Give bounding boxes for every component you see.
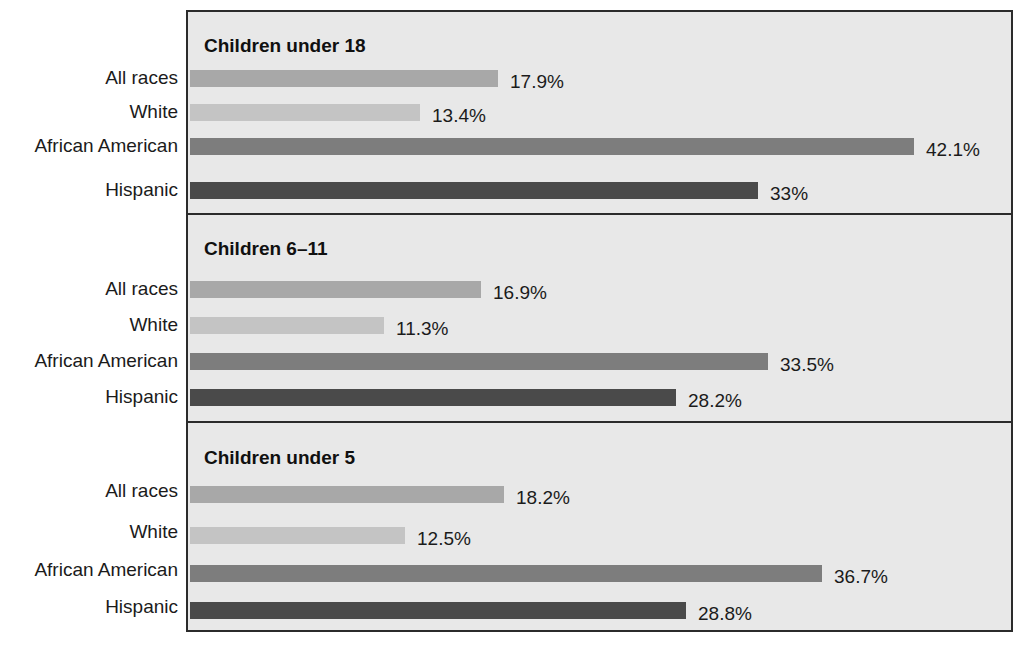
category-label: White: [0, 102, 178, 121]
bar-all-races: [190, 281, 481, 298]
panel-children-6-11: Children 6–11 16.9% 11.3% 33.5% 28.2%: [188, 215, 1011, 421]
bar-value-label: 33.5%: [780, 355, 834, 374]
bar-african-american: [190, 353, 768, 370]
panel-title: Children under 18: [204, 36, 366, 55]
bar-white: [190, 104, 420, 121]
category-label: All races: [0, 68, 178, 87]
category-label: African American: [0, 560, 178, 579]
panel-children-under-5: Children under 5 18.2% 12.5% 36.7% 28.8%: [188, 423, 1011, 630]
category-label: African American: [0, 136, 178, 155]
bar-hispanic: [190, 602, 686, 619]
category-label: All races: [0, 481, 178, 500]
bar-value-label: 18.2%: [516, 488, 570, 507]
bar-value-label: 11.3%: [396, 319, 448, 338]
bar-value-label: 17.9%: [510, 72, 564, 91]
plot-area: Children under 18 17.9% 13.4% 42.1% 33% …: [186, 10, 1013, 632]
bar-value-label: 13.4%: [432, 106, 486, 125]
chart-figure: All races White African American Hispani…: [0, 0, 1026, 650]
panel-title: Children 6–11: [204, 239, 328, 258]
category-label: Hispanic: [0, 180, 178, 199]
category-label: White: [0, 315, 178, 334]
bar-white: [190, 527, 405, 544]
bar-african-american: [190, 565, 822, 582]
bar-all-races: [190, 70, 498, 87]
bar-value-label: 42.1%: [926, 140, 980, 159]
panel-title: Children under 5: [204, 448, 355, 467]
bar-value-label: 28.8%: [698, 604, 752, 623]
panel-children-under-18: Children under 18 17.9% 13.4% 42.1% 33%: [188, 12, 1011, 215]
bar-value-label: 16.9%: [493, 283, 547, 302]
bar-value-label: 12.5%: [417, 529, 471, 548]
category-label: Hispanic: [0, 387, 178, 406]
bar-value-label: 28.2%: [688, 391, 742, 410]
bar-all-races: [190, 486, 504, 503]
category-label: African American: [0, 351, 178, 370]
category-label: All races: [0, 279, 178, 298]
bar-value-label: 33%: [770, 184, 808, 203]
bar-white: [190, 317, 384, 334]
bar-value-label: 36.7%: [834, 567, 888, 586]
bar-hispanic: [190, 389, 676, 406]
bar-african-american: [190, 138, 914, 155]
bar-hispanic: [190, 182, 758, 199]
category-label: Hispanic: [0, 597, 178, 616]
category-label: White: [0, 522, 178, 541]
